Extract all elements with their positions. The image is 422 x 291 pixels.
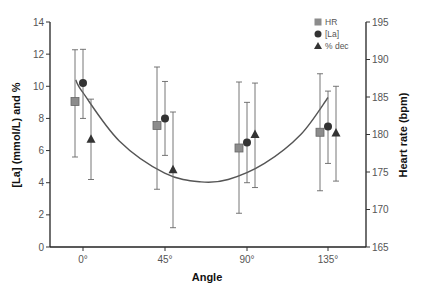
triangle-marker <box>169 165 178 174</box>
y-tick-label: 4 <box>38 177 44 188</box>
legend-label: HR <box>325 17 337 27</box>
square-marker <box>153 122 161 130</box>
triangle-marker <box>332 128 341 136</box>
series-la <box>79 49 332 182</box>
legend-square-icon <box>315 19 322 26</box>
chart-canvas: 024681012141651701751801851901950°45°90°… <box>0 0 422 291</box>
legend-label: [La] <box>325 29 339 39</box>
square-marker <box>235 144 243 152</box>
y-tick-label: 6 <box>38 145 44 156</box>
fit-curve <box>76 80 328 183</box>
square-marker <box>71 98 79 106</box>
y-tick-label: 10 <box>33 81 45 92</box>
circle-marker <box>243 139 251 147</box>
y2-axis-title: Heart rate (bpm) <box>397 92 409 177</box>
y2-tick-label: 190 <box>372 54 389 65</box>
y2-tick-label: 165 <box>372 242 389 253</box>
y-tick-label: 2 <box>38 209 44 220</box>
circle-marker <box>324 122 332 130</box>
y-axis-title: [La] (mmol/L) and % <box>10 82 22 187</box>
y2-tick-label: 170 <box>372 204 389 215</box>
x-axis-title: Angle <box>192 271 223 283</box>
data-series <box>71 49 341 227</box>
circle-marker <box>79 79 87 87</box>
square-marker <box>316 128 324 136</box>
legend: HR[La]% dec <box>314 17 349 51</box>
y-tick-label: 0 <box>38 242 44 253</box>
legend-item: HR <box>315 17 338 27</box>
series-hr <box>71 50 324 214</box>
triangle-marker <box>87 134 96 143</box>
y2-tick-label: 180 <box>372 129 389 140</box>
y-tick-label: 8 <box>38 113 44 124</box>
series-dec <box>87 83 341 228</box>
y-tick-label: 14 <box>33 17 45 28</box>
x-tick-label: 90° <box>239 254 254 265</box>
chart: 024681012141651701751801851901950°45°90°… <box>0 0 422 291</box>
x-tick-label: 135° <box>318 254 339 265</box>
legend-item: % dec <box>314 41 349 51</box>
y2-tick-label: 195 <box>372 17 389 28</box>
legend-label: % dec <box>325 41 349 51</box>
legend-triangle-icon <box>314 42 322 49</box>
x-tick-label: 45° <box>157 254 172 265</box>
x-tick-label: 0° <box>78 254 88 265</box>
legend-item: [La] <box>315 29 340 39</box>
circle-marker <box>161 114 169 122</box>
triangle-marker <box>251 130 260 139</box>
legend-circle-icon <box>315 31 322 38</box>
y-tick-label: 12 <box>33 49 45 60</box>
y2-tick-label: 175 <box>372 167 389 178</box>
trend-curve <box>76 80 328 183</box>
y2-tick-label: 185 <box>372 92 389 103</box>
